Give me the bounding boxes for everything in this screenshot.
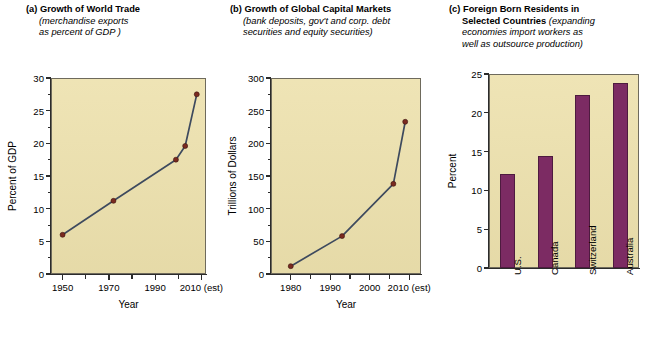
y-tick-c-4 bbox=[484, 112, 489, 113]
data-point-a-4 bbox=[194, 92, 199, 97]
y-axis-title-c: Percent bbox=[447, 154, 458, 188]
chart-panel-c: (c) Foreign Born Residents in Selected C… bbox=[440, 0, 657, 342]
y-tick-c-2 bbox=[484, 190, 489, 191]
data-point-a-2 bbox=[173, 157, 178, 162]
y-tick-label-c-1: 5 bbox=[449, 224, 482, 235]
chart-panel-b: (b) Growth of Global Capital Markets (ba… bbox=[222, 0, 440, 342]
x-tick-label-c-3: Australia bbox=[624, 238, 635, 275]
y-tick-label-c-5: 25 bbox=[449, 69, 482, 80]
y-axis-line-c bbox=[488, 74, 489, 269]
bar-0 bbox=[500, 174, 515, 268]
data-point-b-2 bbox=[391, 181, 396, 186]
y-tick-c-5 bbox=[484, 73, 489, 74]
x-axis-line-c bbox=[488, 268, 640, 269]
y-tick-c-0 bbox=[484, 267, 489, 268]
y-tick-label-c-0: 0 bbox=[449, 263, 482, 274]
data-series-b bbox=[222, 0, 440, 342]
panel-c-label: (c) bbox=[449, 4, 460, 14]
data-point-a-1 bbox=[111, 198, 116, 203]
panel-c-subtitle-line3: economies import workers as bbox=[449, 27, 657, 39]
panel-c-subtitle-line4: well as outsource production) bbox=[449, 39, 657, 51]
x-tick-label-c-2: Switzerland bbox=[587, 225, 598, 275]
data-series-a bbox=[0, 0, 222, 342]
data-point-b-1 bbox=[340, 234, 345, 239]
data-point-b-0 bbox=[288, 264, 293, 269]
panel-c-title-line2: Selected Countries bbox=[462, 16, 546, 26]
data-point-a-0 bbox=[60, 232, 65, 237]
y-tick-c-1 bbox=[484, 229, 489, 230]
panel-c-caption: (c) Foreign Born Residents in Selected C… bbox=[449, 4, 657, 50]
chart-panel-a: (a) Growth of World Trade (merchandise e… bbox=[0, 0, 222, 342]
panel-c-subtitle-line2: (expanding bbox=[549, 16, 595, 26]
y-tick-c-3 bbox=[484, 151, 489, 152]
line-path-b bbox=[291, 122, 405, 266]
y-tick-label-c-4: 20 bbox=[449, 107, 482, 118]
data-point-b-3 bbox=[403, 119, 408, 124]
panel-c-title-line1: Foreign Born Residents in bbox=[463, 4, 579, 14]
y-tick-label-c-2: 10 bbox=[449, 185, 482, 196]
data-point-a-3 bbox=[183, 143, 188, 148]
line-path-a bbox=[63, 94, 197, 234]
x-tick-label-c-1: Canada bbox=[549, 241, 560, 275]
x-tick-label-c-0: U.S. bbox=[512, 256, 523, 275]
y-tick-label-c-3: 15 bbox=[449, 146, 482, 157]
